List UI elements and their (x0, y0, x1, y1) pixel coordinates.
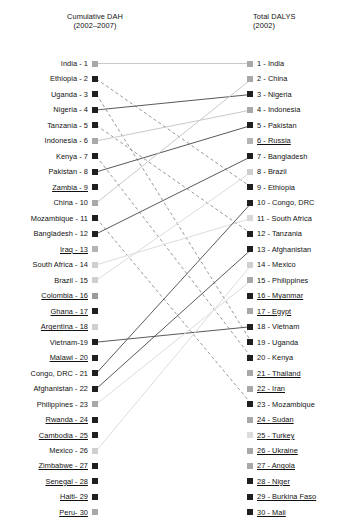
rank-marker-square-icon (247, 61, 253, 67)
rank-label: Congo, DRC - 21 (31, 369, 88, 378)
rank-row-r-20[interactable]: 20 - Kenya (247, 352, 345, 363)
rank-label: 26 - Ukraine (257, 446, 298, 455)
link-tanzania (97, 125, 252, 233)
rank-row-r-28[interactable]: 28 - Niger (247, 476, 345, 487)
rank-marker-square-icon (247, 138, 253, 144)
rank-label: 20 - Kenya (257, 353, 293, 362)
rank-row-l-10[interactable]: China - 10 (0, 197, 98, 208)
rank-row-l-12[interactable]: Bangladesh - 12 (0, 228, 98, 239)
rank-row-r-13[interactable]: 13 - Afghanistan (247, 244, 345, 255)
rank-row-l-20[interactable]: Malawi - 20 (0, 352, 98, 363)
rank-row-l-27[interactable]: Zimbabwe - 27 (0, 460, 98, 471)
rank-row-l-26[interactable]: Mexico - 26 (0, 445, 98, 456)
rank-marker-square-icon (92, 169, 98, 175)
rank-row-r-26[interactable]: 26 - Ukraine (247, 445, 345, 456)
rank-row-l-7[interactable]: Kenya - 7 (0, 151, 98, 162)
rank-row-r-5[interactable]: 5 - Pakistan (247, 120, 345, 131)
rank-row-r-25[interactable]: 25 - Turkey (247, 430, 345, 441)
rank-row-r-1[interactable]: 1 - India (247, 58, 345, 69)
rank-row-r-22[interactable]: 22 - Iran (247, 383, 345, 394)
rank-row-l-17[interactable]: Ghana - 17 (0, 306, 98, 317)
rank-row-r-7[interactable]: 7 - Bangladesh (247, 151, 345, 162)
rank-marker-square-icon (92, 448, 98, 454)
rank-row-r-30[interactable]: 30 - Mali (247, 507, 345, 518)
rank-label: Tanzania - 5 (47, 121, 88, 130)
rank-row-r-9[interactable]: 9 - Ethiopia (247, 182, 345, 193)
rank-row-r-4[interactable]: 4 - Indonesia (247, 104, 345, 115)
rank-row-r-15[interactable]: 15 - Philippines (247, 275, 345, 286)
rank-row-l-11[interactable]: Mozambique - 11 (0, 213, 98, 224)
rank-row-l-23[interactable]: Philippines - 23 (0, 399, 98, 410)
rank-label: Cambodia - 25 (39, 431, 88, 440)
rank-row-r-18[interactable]: 18 - Vietnam (247, 321, 345, 332)
rank-row-l-8[interactable]: Pakistan - 8 (0, 166, 98, 177)
rank-marker-square-icon (92, 91, 98, 97)
rank-marker-square-icon (92, 324, 98, 330)
rank-row-l-9[interactable]: Zambia - 9 (0, 182, 98, 193)
link-ethiopia (97, 79, 252, 187)
rank-row-l-25[interactable]: Cambodia - 25 (0, 430, 98, 441)
rank-marker-square-icon (92, 494, 98, 500)
rank-row-l-15[interactable]: Brazil - 15 (0, 275, 98, 286)
rank-label: Ghana - 17 (51, 307, 88, 316)
rank-marker-square-icon (92, 386, 98, 392)
rank-label: 6 - Russia (257, 136, 291, 145)
rank-row-l-19[interactable]: Vietnam-19 (0, 337, 98, 348)
rank-marker-square-icon (92, 417, 98, 423)
rank-label: 2 - China (257, 74, 287, 83)
rank-row-r-3[interactable]: 3 - Nigeria (247, 89, 345, 100)
slopegraph: Cumulative DAH (2002–2007) Total DALYS (… (0, 0, 345, 531)
rank-row-r-16[interactable]: 16 - Myanmar (247, 290, 345, 301)
rank-row-l-3[interactable]: Uganda - 3 (0, 89, 98, 100)
rank-label: 27 - Angola (257, 461, 295, 470)
rank-row-r-10[interactable]: 10 - Congo, DRC (247, 197, 345, 208)
rank-label: Vietnam-19 (50, 338, 88, 347)
rank-label: 29 - Burkina Faso (257, 492, 316, 501)
rank-row-r-23[interactable]: 23 - Mozambique (247, 399, 345, 410)
rank-marker-square-icon (92, 355, 98, 361)
rank-row-l-16[interactable]: Colombia - 16 (0, 290, 98, 301)
link-bangladesh (97, 156, 252, 233)
rank-label: Senegal - 28 (45, 477, 88, 486)
rank-row-l-30[interactable]: Peru- 30 (0, 507, 98, 518)
rank-row-l-18[interactable]: Argentina - 18 (0, 321, 98, 332)
rank-label: 23 - Mozambique (257, 400, 315, 409)
rank-marker-square-icon (247, 417, 253, 423)
rank-row-l-1[interactable]: India - 1 (0, 58, 98, 69)
rank-row-r-8[interactable]: 8 - Brazil (247, 166, 345, 177)
rank-row-r-21[interactable]: 21 - Thailand (247, 368, 345, 379)
rank-row-l-4[interactable]: Nigeria - 4 (0, 104, 98, 115)
rank-row-r-14[interactable]: 14 - Mexico (247, 259, 345, 270)
rank-row-l-21[interactable]: Congo, DRC - 21 (0, 368, 98, 379)
rank-marker-square-icon (247, 293, 253, 299)
rank-marker-square-icon (92, 339, 98, 345)
rank-row-l-13[interactable]: Iraq - 13 (0, 244, 98, 255)
rank-marker-square-icon (247, 277, 253, 283)
rank-row-r-17[interactable]: 17 - Egypt (247, 306, 345, 317)
rank-marker-square-icon (92, 262, 98, 268)
rank-row-r-24[interactable]: 24 - Sudan (247, 414, 345, 425)
rank-label: 21 - Thailand (257, 369, 301, 378)
rank-label: Argentina - 18 (41, 322, 88, 331)
rank-row-r-11[interactable]: 11 - South Africa (247, 213, 345, 224)
rank-row-r-29[interactable]: 29 - Burkina Faso (247, 491, 345, 502)
rank-row-l-2[interactable]: Ethiopia - 2 (0, 73, 98, 84)
rank-label: Philippines - 23 (37, 400, 88, 409)
rank-row-l-29[interactable]: Haiti- 29 (0, 491, 98, 502)
rank-label: 25 - Turkey (257, 431, 295, 440)
rank-marker-square-icon (247, 432, 253, 438)
rank-row-l-6[interactable]: Indonesia - 6 (0, 135, 98, 146)
rank-row-r-12[interactable]: 12 - Tanzania (247, 228, 345, 239)
rank-row-l-22[interactable]: Afghanistan - 22 (0, 383, 98, 394)
rank-row-l-5[interactable]: Tanzania - 5 (0, 120, 98, 131)
rank-row-r-2[interactable]: 2 - China (247, 73, 345, 84)
rank-row-l-28[interactable]: Senegal - 28 (0, 476, 98, 487)
rank-row-r-27[interactable]: 27 - Angola (247, 460, 345, 471)
rank-label: 19 - Uganda (257, 338, 298, 347)
rank-label: 17 - Egypt (257, 307, 291, 316)
rank-row-l-24[interactable]: Rwanda - 24 (0, 414, 98, 425)
rank-marker-square-icon (92, 76, 98, 82)
rank-row-r-19[interactable]: 19 - Uganda (247, 337, 345, 348)
rank-row-l-14[interactable]: South Africa - 14 (0, 259, 98, 270)
rank-row-r-6[interactable]: 6 - Russia (247, 135, 345, 146)
